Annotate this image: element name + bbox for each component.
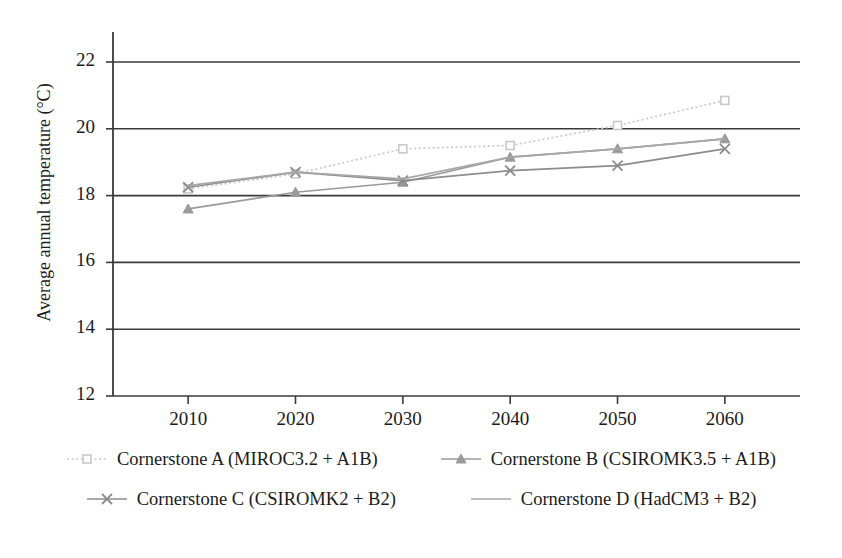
x-tick-label: 2010 — [148, 408, 228, 430]
data-point-square — [721, 96, 729, 104]
legend-label: Cornerstone D (HadCM3 + B2) — [521, 490, 757, 509]
data-point-square — [506, 142, 514, 150]
legend-label: Cornerstone C (CSIROMK2 + B2) — [137, 490, 396, 509]
legend-label: Cornerstone B (CSIROMK3.5 + A1B) — [491, 450, 776, 469]
legend-swatch-triangle-icon — [440, 450, 482, 468]
data-point-square — [399, 145, 407, 153]
y-tick-label: 12 — [55, 383, 95, 405]
legend-row: Cornerstone A (MIROC3.2 + A1B)Cornerston… — [0, 450, 842, 469]
y-tick-label: 16 — [55, 249, 95, 271]
series-a — [184, 96, 729, 193]
chart-figure: Average annual temperature (°C) 12141618… — [0, 0, 842, 558]
plot-area: Average annual temperature (°C) 12141618… — [0, 0, 842, 440]
chart-legend: Cornerstone A (MIROC3.2 + A1B)Cornerston… — [0, 442, 842, 558]
x-tick-label: 2020 — [255, 408, 335, 430]
legend-item-a[interactable]: Cornerstone A (MIROC3.2 + A1B) — [66, 450, 378, 469]
chart-canvas — [0, 0, 842, 440]
legend-item-d[interactable]: Cornerstone D (HadCM3 + B2) — [470, 490, 757, 509]
y-tick-label: 22 — [55, 49, 95, 71]
legend-item-b[interactable]: Cornerstone B (CSIROMK3.5 + A1B) — [440, 450, 776, 469]
y-tick-label: 18 — [55, 183, 95, 205]
x-tick-label: 2030 — [363, 408, 443, 430]
x-tick-label: 2040 — [470, 408, 550, 430]
legend-swatch-none-icon — [470, 490, 512, 508]
legend-label: Cornerstone A (MIROC3.2 + A1B) — [117, 450, 378, 469]
y-tick-label: 20 — [55, 116, 95, 138]
legend-row: Cornerstone C (CSIROMK2 + B2)Cornerstone… — [0, 490, 842, 509]
legend-item-c[interactable]: Cornerstone C (CSIROMK2 + B2) — [86, 490, 396, 509]
legend-swatch-square-icon — [66, 450, 108, 468]
data-point-square — [614, 121, 622, 129]
series-line — [188, 139, 725, 209]
x-tick-label: 2060 — [685, 408, 765, 430]
legend-swatch-cross-icon — [86, 490, 128, 508]
y-axis-title: Average annual temperature (°C) — [34, 43, 55, 363]
data-point-square — [83, 455, 91, 463]
x-tick-label: 2050 — [578, 408, 658, 430]
y-tick-label: 14 — [55, 316, 95, 338]
